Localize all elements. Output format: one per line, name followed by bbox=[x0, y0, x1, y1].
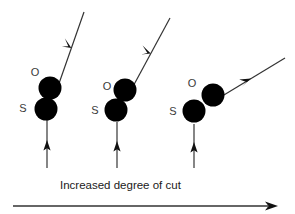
molecule-group-3: O S bbox=[169, 58, 285, 168]
group-3-label-s: S bbox=[169, 105, 176, 117]
group-3-label-o: O bbox=[188, 77, 197, 89]
group-3-atom-o bbox=[202, 84, 225, 107]
group-1-label-o: O bbox=[31, 66, 40, 78]
group-2-diagonal-arrow-shaft bbox=[130, 18, 170, 92]
group-2-label-s: S bbox=[91, 104, 98, 116]
diagram-svg: O S O S O S Increased degree of c bbox=[0, 0, 295, 214]
group-2-atom-s bbox=[105, 99, 128, 122]
group-1-diagonal-arrow-head bbox=[62, 38, 72, 48]
group-1-label-s: S bbox=[19, 102, 26, 114]
group-3-atom-s bbox=[183, 100, 206, 123]
molecule-group-1: O S bbox=[19, 12, 84, 168]
group-1-diagonal-arrow-shaft bbox=[56, 12, 84, 92]
group-2-atom-o bbox=[114, 79, 137, 102]
group-2-diagonal-arrow-head bbox=[141, 46, 151, 55]
group-1-atom-o bbox=[39, 77, 62, 100]
caption-label: Increased degree of cut bbox=[60, 179, 182, 191]
molecule-group-2: O S bbox=[91, 18, 170, 168]
progression-axis-arrow bbox=[13, 202, 278, 211]
group-2-label-o: O bbox=[103, 80, 112, 92]
group-1-atom-s bbox=[35, 98, 58, 121]
figure-canvas: O S O S O S Increased degree of c bbox=[0, 0, 295, 214]
